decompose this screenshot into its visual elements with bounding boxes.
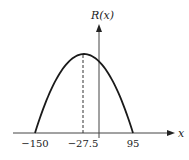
tick-label-left-root: −150 xyxy=(21,138,48,149)
tick-label-vertex: −27.5 xyxy=(68,138,99,149)
parabola-curve xyxy=(35,54,133,133)
y-axis-label: R(x) xyxy=(90,9,114,22)
x-axis-arrow-icon xyxy=(167,130,175,136)
parabola-chart: R(x) x −150 −27.5 95 xyxy=(0,0,189,160)
y-axis-arrow-icon xyxy=(96,24,102,32)
tick-label-right-root: 95 xyxy=(127,138,140,149)
x-axis-label: x xyxy=(178,127,185,140)
